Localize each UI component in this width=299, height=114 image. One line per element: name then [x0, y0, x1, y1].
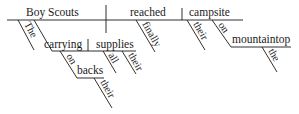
prep2-word: on	[216, 20, 231, 35]
article-the-word: The	[22, 20, 40, 40]
backs-modifier-word: their	[98, 78, 117, 101]
supplies-modifier-2-word: their	[126, 51, 145, 74]
supplies-modifier-1-word: all	[106, 51, 121, 66]
sentence-diagram: Boy Scouts reached campsite The carrying…	[0, 0, 299, 114]
object-modifier-word: their	[191, 20, 210, 43]
subject-word: Boy Scouts	[26, 6, 79, 19]
adverb-word: finally	[140, 20, 164, 50]
object-word: campsite	[189, 6, 230, 19]
prep1-object-word: backs	[77, 64, 104, 76]
mountaintop-article-word: the	[266, 47, 282, 64]
participle-word: carrying	[44, 38, 83, 51]
prep2-object-word: mountaintop	[232, 33, 290, 46]
participle-object-word: supplies	[96, 38, 134, 51]
verb-word: reached	[130, 6, 166, 18]
